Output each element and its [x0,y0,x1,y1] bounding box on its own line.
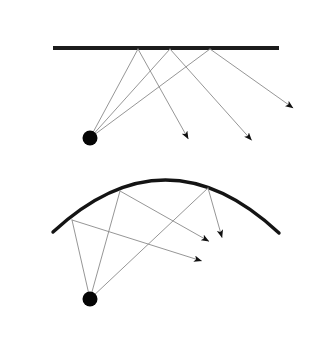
convex-mirror-panel [53,180,279,307]
reflection-diagram-canvas [0,0,326,351]
incident-ray-3 [90,188,208,299]
incident-ray-1 [72,220,90,299]
incident-ray-2 [90,191,120,299]
plane-incident-rays [90,49,210,138]
incident-ray-2 [90,49,170,138]
reflected-ray-1 [138,49,188,139]
incident-ray-3 [90,49,210,138]
plane-reflected-rays [138,49,293,140]
reflected-ray-2 [170,49,251,140]
convex-incident-rays [72,188,208,299]
optics-figure: Reflection of light rays from a plane mi… [0,0,326,351]
plane-mirror-panel [53,48,293,146]
convex-mirror-light-source-point [83,292,98,307]
reflected-ray-3 [210,49,293,108]
reflected-ray-3 [208,188,222,237]
reflected-ray-2 [120,191,209,241]
incident-ray-1 [90,49,138,138]
plane-mirror-light-source-point [83,131,98,146]
